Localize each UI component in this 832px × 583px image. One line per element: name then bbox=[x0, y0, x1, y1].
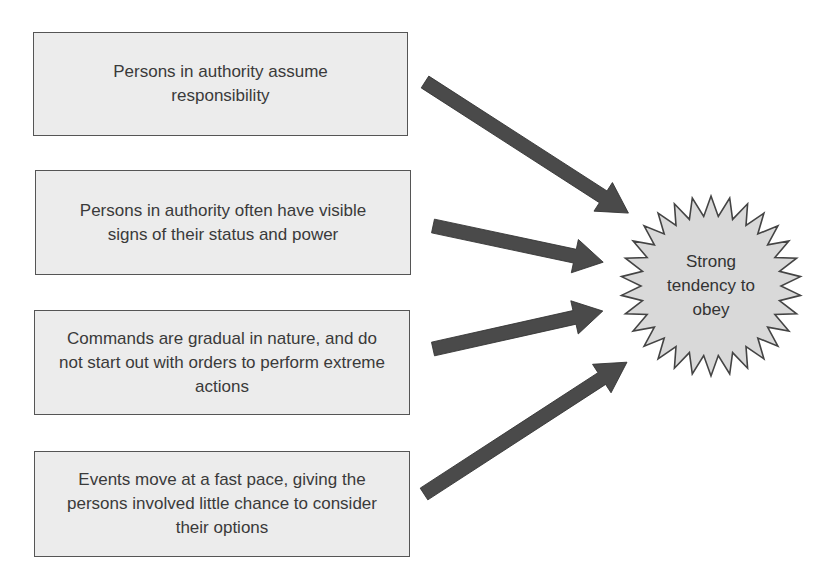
arrow-icon-3 bbox=[429, 294, 606, 365]
arrow-icon-4 bbox=[415, 348, 636, 508]
arrow-icon-2 bbox=[429, 209, 606, 278]
outcome-label: Strong tendency to obey bbox=[651, 250, 771, 322]
arrow-icon-1 bbox=[416, 68, 638, 228]
